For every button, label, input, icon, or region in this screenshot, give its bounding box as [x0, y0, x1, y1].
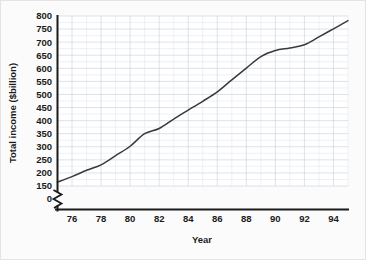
x-axis-tick-label: 90 [270, 213, 281, 224]
y-axis-tick-label: 650 [36, 50, 52, 61]
y-axis-tick-label: 250 [36, 154, 52, 165]
x-axis-tick-label: 80 [125, 213, 136, 224]
y-axis-tick-label: 550 [36, 76, 52, 87]
y-axis-tick-label: 200 [36, 167, 52, 178]
y-axis-tick-label: 600 [36, 63, 52, 74]
x-axis-tick-label: 78 [96, 213, 107, 224]
x-axis-tick-labels: 76788082848688909294 [67, 213, 340, 224]
y-axis-tick-label: 150 [36, 180, 52, 191]
x-axis-tick-label: 84 [183, 213, 194, 224]
x-axis-tick-label: 82 [154, 213, 165, 224]
y-axis-tick-label: 350 [36, 128, 52, 139]
y-axis-zero-label: 0 [47, 193, 52, 204]
x-axis-tick-label: 94 [328, 213, 339, 224]
y-axis-tick-label: 300 [36, 141, 52, 152]
x-axis-title: Year [192, 234, 212, 245]
line-chart: 1502002503003504004505005506006507007508… [0, 0, 366, 260]
y-axis-tick-label: 700 [36, 37, 52, 48]
y-axis-tick-label: 450 [36, 102, 52, 113]
y-axis-tick-label: 500 [36, 89, 52, 100]
x-axis-tick-label: 76 [67, 213, 78, 224]
y-axis-break-icon [54, 190, 62, 208]
x-axis-tick-label: 88 [241, 213, 252, 224]
y-axis-tick-labels: 1502002503003504004505005506006507007508… [36, 10, 52, 191]
x-axis-tick-label: 86 [212, 213, 223, 224]
y-axis-tick-label: 800 [36, 10, 52, 21]
y-axis-title: Total income ($billion) [7, 63, 18, 163]
y-axis-tick-label: 400 [36, 115, 52, 126]
y-axis-tick-label: 750 [36, 23, 52, 34]
chart-figure: 1502002503003504004505005506006507007508… [0, 0, 366, 260]
x-axis-tick-label: 92 [299, 213, 310, 224]
